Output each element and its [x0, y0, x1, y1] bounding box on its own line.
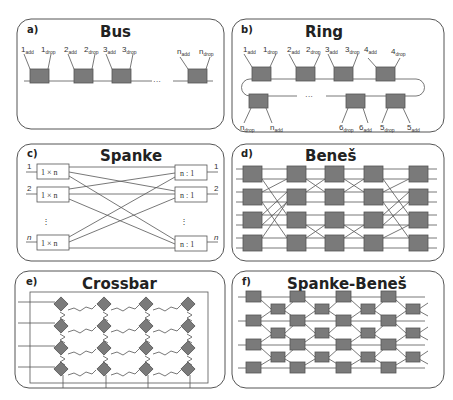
bus-label-3-add: 3add	[103, 45, 116, 55]
ring-label-n-drop: ndrop	[240, 123, 255, 133]
panel-benes: d) Beneš	[232, 144, 444, 261]
ring-label-2-add: 2add	[287, 45, 300, 55]
input-n-label: n	[27, 233, 32, 242]
ring-node-5	[382, 94, 410, 123]
ring-label-n-add: nadd	[270, 123, 283, 133]
ring-label-1-drop: 1drop	[263, 45, 278, 55]
panel-spanke-title: Spanke	[100, 147, 162, 165]
output-2-label: 2	[214, 184, 219, 193]
bus-label-1-add: 1add	[21, 45, 34, 55]
bus-ellipsis: ···	[153, 77, 161, 86]
panel-ring: b) Ring ··· 1add 1drop 2add 2drop 3add 3…	[232, 19, 444, 133]
combiner-2-label: n : 1	[180, 191, 194, 200]
bus-node-3	[106, 54, 133, 83]
panel-bus: a) Bus ··· 1add 1drop 2add 2drop 3add 3d…	[17, 19, 224, 129]
ring-label-4-drop: 4drop	[391, 47, 406, 57]
crossbar-grid	[18, 292, 208, 388]
bus-node-2	[68, 54, 95, 83]
output-n-label: n	[214, 233, 219, 242]
bus-label-n-add: nadd	[177, 47, 190, 57]
ring-loop	[242, 79, 425, 96]
panel-crossbar-title: Crossbar	[82, 275, 157, 293]
ring-label-5-drop: 5drop	[380, 123, 395, 133]
panel-benes-letter: d)	[241, 148, 253, 159]
ring-node-4	[368, 58, 400, 81]
spanke-benes-switches	[246, 291, 420, 373]
bus-label-1-drop: 1drop	[41, 45, 56, 55]
bus-label-3-drop: 3drop	[122, 45, 137, 55]
ring-node-n	[244, 94, 272, 123]
ring-ellipsis: ···	[305, 92, 313, 101]
ring-node-3	[328, 54, 358, 81]
panel-spanke-benes-letter: f)	[242, 276, 251, 287]
ring-node-6	[342, 94, 368, 123]
panel-spanke-benes: f) Spanke-Beneš	[232, 271, 444, 388]
panel-bus-title: Bus	[100, 23, 131, 41]
ring-node-1	[244, 54, 276, 81]
panel-spanke-benes-title: Spanke-Beneš	[287, 275, 407, 293]
splitter-2-label: 1 × n	[41, 191, 58, 200]
combiner-n-label: n : 1	[180, 240, 194, 249]
combiner-vdots: ⋮	[180, 217, 188, 226]
panel-bus-letter: a)	[27, 24, 38, 35]
ring-label-4-add: 4add	[364, 45, 377, 55]
ring-label-5-add: 5add	[407, 123, 420, 133]
spanke-interconnect	[69, 167, 175, 248]
bus-label-2-add: 2add	[64, 45, 77, 55]
panel-benes-title: Beneš	[305, 147, 356, 165]
ring-label-6-drop: 6drop	[339, 123, 354, 133]
spanke-benes-lines	[238, 297, 428, 368]
panel-spanke: c) Spanke 1 × n 1 × n 1 × n n : 1 n : 1 …	[17, 144, 224, 261]
ring-label-1-add: 1add	[243, 45, 256, 55]
panel-ring-letter: b)	[241, 24, 253, 35]
splitter-1-label: 1 × n	[41, 168, 58, 177]
panel-crossbar-letter: e)	[26, 276, 37, 287]
splitter-n-label: 1 × n	[41, 239, 58, 248]
combiner-1-label: n : 1	[180, 169, 194, 178]
ring-label-3-drop: 3drop	[345, 45, 360, 55]
ring-label-6-add: 6add	[359, 123, 372, 133]
ring-label-3-add: 3add	[325, 45, 338, 55]
ring-label-2-drop: 2drop	[306, 45, 321, 55]
splitter-vdots: ⋮	[42, 217, 50, 226]
ring-node-2	[289, 54, 320, 81]
input-2-label: 2	[27, 184, 32, 193]
bus-label-2-drop: 2drop	[84, 45, 99, 55]
figure-canvas: a) Bus ··· 1add 1drop 2add 2drop 3add 3d…	[0, 0, 453, 400]
panel-ring-title: Ring	[305, 23, 343, 41]
panel-crossbar: e) Crossbar	[15, 271, 225, 388]
bus-label-n-drop: ndrop	[199, 47, 214, 57]
bus-node-n	[180, 57, 210, 83]
input-1-label: 1	[27, 162, 32, 171]
bus-node-1	[24, 54, 51, 83]
output-1-label: 1	[214, 162, 219, 171]
panel-spanke-letter: c)	[27, 148, 38, 159]
